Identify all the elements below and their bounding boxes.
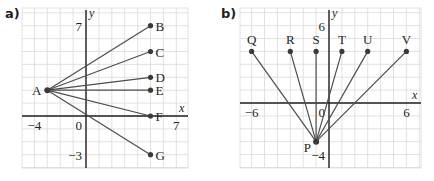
y-axis-label: y — [88, 6, 95, 20]
point-label-A: A — [32, 83, 42, 98]
y-tick-label: −3 — [68, 148, 82, 163]
x-axis-label: x — [411, 88, 418, 102]
point-label-V: V — [402, 32, 412, 47]
point-U — [365, 49, 370, 54]
segment-PQ — [252, 51, 317, 141]
point-label-T: T — [338, 32, 346, 47]
grid — [240, 8, 421, 168]
point-T — [339, 49, 344, 54]
point-label-B: B — [156, 19, 165, 34]
y-tick-label: 7 — [76, 19, 83, 34]
point-C — [148, 49, 153, 54]
x-tick-label: 6 — [403, 105, 410, 120]
point-A — [44, 87, 50, 93]
point-G — [148, 152, 153, 157]
x-axis-label: x — [178, 101, 185, 115]
point-label-S: S — [312, 32, 319, 47]
y-tick-label: −4 — [311, 148, 325, 163]
diagram-canvas: xy7−407−3BCDEFGAxy6−606−4QRSTUVP — [0, 0, 434, 181]
point-label-F: F — [156, 109, 163, 124]
point-label-U: U — [363, 32, 373, 47]
x-tick-label: 7 — [173, 118, 180, 133]
panel-b-graph: xy6−606−4QRSTUVP — [240, 6, 421, 168]
point-R — [288, 49, 293, 54]
point-F — [148, 113, 153, 118]
point-label-E: E — [156, 83, 164, 98]
origin-label: 0 — [76, 118, 83, 133]
x-tick-label: −6 — [245, 105, 259, 120]
x-tick-label: −4 — [27, 118, 41, 133]
point-P — [313, 139, 319, 145]
point-S — [314, 49, 319, 54]
point-V — [404, 49, 409, 54]
point-label-G: G — [156, 148, 165, 163]
point-label-Q: Q — [247, 32, 257, 47]
point-label-P: P — [304, 140, 311, 155]
point-E — [148, 88, 153, 93]
point-label-R: R — [286, 32, 295, 47]
panel-a-graph: xy7−407−3BCDEFGA — [22, 6, 188, 168]
y-tick-label: 6 — [319, 19, 326, 34]
point-label-C: C — [156, 45, 165, 60]
y-axis-label: y — [331, 6, 338, 20]
point-B — [148, 23, 153, 28]
point-D — [148, 75, 153, 80]
point-Q — [249, 49, 254, 54]
